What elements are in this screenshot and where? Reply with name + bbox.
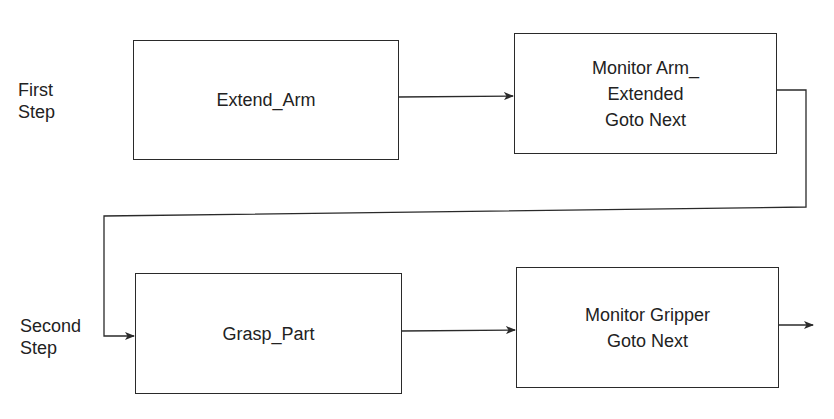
step-label-line: Step [20, 337, 81, 359]
box-text: Monitor Arm_ [592, 55, 699, 81]
box-extend-arm: Extend_Arm [133, 40, 399, 160]
arrow-extend-to-monitor-arm [398, 96, 513, 97]
box-text: Goto Next [605, 107, 686, 133]
box-text: Goto Next [607, 328, 688, 354]
box-monitor-gripper: Monitor Gripper Goto Next [516, 267, 779, 388]
box-text: Grasp_Part [222, 321, 314, 347]
box-monitor-arm-extended: Monitor Arm_ Extended Goto Next [514, 33, 777, 154]
flowchart-diagram: First Step Second Step Extend_Arm Monito… [0, 0, 834, 419]
box-grasp-part: Grasp_Part [135, 273, 402, 394]
box-text: Monitor Gripper [585, 302, 710, 328]
box-text: Extend_Arm [216, 87, 315, 113]
step-label-first: First Step [18, 79, 55, 123]
step-label-line: Second [20, 315, 81, 337]
step-label-line: First [18, 79, 55, 101]
step-label-line: Step [18, 101, 55, 123]
step-label-second: Second Step [20, 315, 81, 359]
box-text: Extended [607, 81, 683, 107]
arrow-grasp-to-monitor-gripper [401, 330, 515, 331]
